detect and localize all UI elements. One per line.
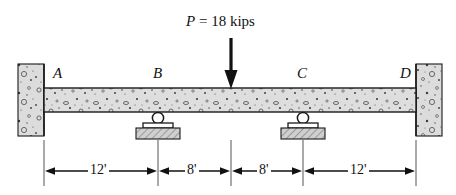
roller-c-plate [288, 123, 318, 128]
dim-arrowhead-ab-left [45, 167, 55, 175]
beam-body [44, 88, 416, 112]
left-wall-block [18, 64, 44, 136]
load-label: P = 18 kips [186, 14, 255, 29]
node-label-a: A [53, 66, 62, 81]
roller-b-plate [143, 123, 173, 128]
dimension-label-ab: 12' [88, 163, 109, 177]
roller-c-wheel [297, 112, 308, 123]
load-arrow-head [225, 70, 238, 89]
dim-arrowhead-pc-left [232, 167, 242, 175]
load-label-rest: = 18 kips [195, 13, 255, 29]
dim-arrowhead-cd-right [405, 167, 415, 175]
roller-b-ground [136, 128, 180, 139]
dimension-label-pc: 8' [257, 163, 271, 177]
node-label-c: C [297, 66, 307, 81]
roller-support-c [281, 112, 325, 139]
dimension-label-cd: 12' [348, 163, 369, 177]
node-label-d: D [400, 66, 411, 81]
load-label-symbol: P [186, 13, 195, 29]
node-label-b: B [153, 66, 162, 81]
roller-c-ground [281, 128, 325, 139]
dim-arrowhead-cd-left [304, 167, 314, 175]
beam-diagram-figure: P = 18 kips A B C D 12' 8' 8' 12' [0, 0, 456, 195]
load-arrow-p [225, 38, 238, 89]
fixed-support-right [416, 64, 442, 136]
roller-support-b [136, 112, 180, 139]
beam-diagram-canvas [0, 0, 456, 195]
fixed-support-left [18, 64, 44, 136]
dimension-label-bp: 8' [185, 163, 199, 177]
right-wall-block [416, 64, 442, 136]
dim-arrowhead-bp-right [220, 167, 230, 175]
beam-member [44, 88, 416, 112]
dim-arrowhead-ab-right [147, 167, 157, 175]
dim-arrowhead-bp-left [159, 167, 169, 175]
roller-b-wheel [152, 112, 163, 123]
dim-arrowhead-pc-right [292, 167, 302, 175]
